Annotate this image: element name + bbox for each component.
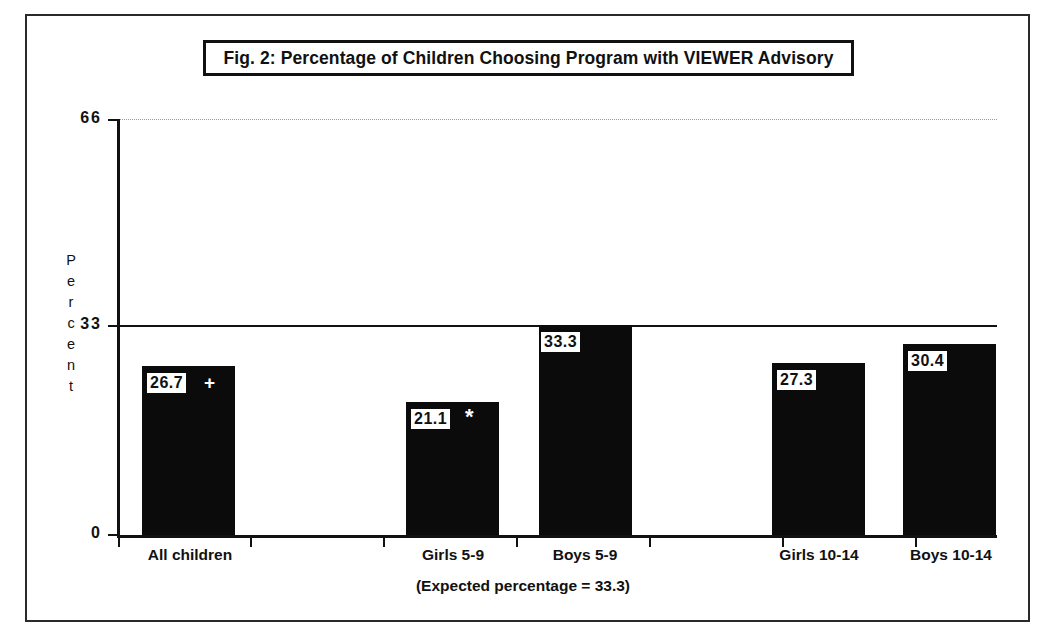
y-tick-mark-33 [108, 325, 118, 327]
x-axis-label-boys-10-14: Boys 10-14 [874, 546, 1028, 564]
y-axis-title-letter-3: c [62, 313, 80, 334]
chart-footnote: (Expected percentage = 33.3) [0, 577, 1046, 595]
bar-value-boys-10-14: 30.4 [908, 351, 947, 371]
bar-value-boys-5-9: 33.3 [541, 332, 580, 352]
y-axis-title-letter-2: r [62, 292, 80, 313]
bar-value-all-children: 26.7 [147, 373, 186, 393]
y-tick-mark-0 [108, 534, 118, 536]
bar-value-girls-5-9: 21.1 [411, 409, 450, 429]
significance-marker-asterisk-icon: * [465, 410, 474, 424]
bar-value-girls-10-14: 27.3 [777, 370, 816, 390]
y-axis-title: P e r c e n t [62, 250, 80, 397]
significance-marker-plus-icon: + [204, 376, 215, 390]
x-axis-label-all-children: All children [110, 546, 270, 564]
y-axis-title-letter-4: e [62, 334, 80, 355]
y-tick-label-33: 33 [80, 315, 102, 333]
y-tick-mark-66 [108, 119, 118, 121]
y-axis-title-letter-6: t [62, 376, 80, 397]
y-axis-title-letter-5: n [62, 355, 80, 376]
gridline-66 [120, 119, 997, 121]
y-tick-label-66: 66 [80, 109, 102, 127]
x-axis-label-girls-10-14: Girls 10-14 [742, 546, 896, 564]
y-axis-title-letter-1: e [62, 271, 80, 292]
x-axis-label-boys-5-9: Boys 5-9 [514, 546, 656, 564]
y-axis-title-letter-0: P [62, 250, 80, 271]
x-axis-line [117, 535, 997, 538]
bar-boys-10-14[interactable] [903, 344, 996, 535]
bar-chart-plot: 66 33 0 P e r c e n t 26.7 + All childre… [0, 0, 1046, 641]
y-tick-label-0: 0 [91, 524, 102, 542]
x-axis-label-girls-5-9: Girls 5-9 [382, 546, 524, 564]
bar-boys-5-9[interactable] [539, 325, 632, 535]
y-axis-line [117, 119, 120, 538]
